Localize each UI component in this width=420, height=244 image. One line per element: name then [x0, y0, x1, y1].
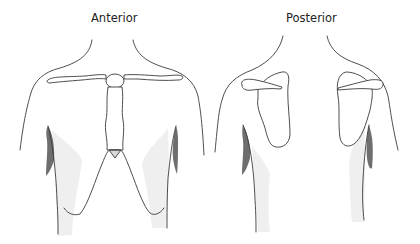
- anterior-right-clavicle: [124, 75, 183, 81]
- anterior-sternum: [105, 87, 123, 150]
- anterior-right-neck-shoulder: [133, 40, 204, 155]
- torso-diagram: [0, 0, 420, 244]
- anterior-left-clavicle: [47, 75, 106, 83]
- anterior-xiphoid: [109, 150, 121, 158]
- anterior-right-light-shading: [142, 128, 169, 228]
- posterior-view: [215, 36, 398, 232]
- anterior-view: [20, 40, 204, 236]
- anterior-right-dark-shading: [173, 126, 178, 174]
- anterior-manubrium: [106, 74, 124, 88]
- anterior-left-neck-shoulder: [20, 40, 92, 150]
